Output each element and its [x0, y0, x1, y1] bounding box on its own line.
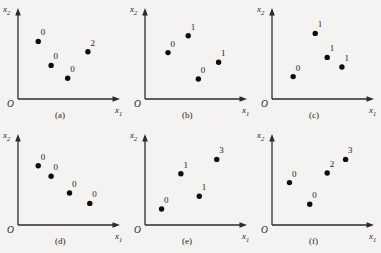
data-point: [287, 180, 292, 185]
data-point-label: 0: [54, 52, 59, 61]
data-point-label: 1: [318, 20, 323, 29]
scatter-panel-f: 0023x2x1O(f): [254, 126, 381, 252]
data-point: [214, 157, 219, 162]
y-axis-label: x2: [3, 5, 10, 16]
data-point: [216, 60, 221, 65]
scatter-panel-a: 0002x2x1O(a): [0, 0, 127, 126]
data-point-label: 3: [219, 146, 224, 155]
panel-canvas: [0, 126, 127, 252]
data-point: [159, 206, 164, 211]
y-axis-arrow-icon: [269, 8, 275, 16]
data-point-label: 0: [171, 40, 176, 49]
data-point: [325, 170, 330, 175]
scatter-panel-c: 0111x2x1O(c): [254, 0, 381, 126]
x-axis-label: x1: [369, 232, 376, 243]
data-point-label: 0: [70, 65, 75, 74]
data-point-label: 0: [201, 66, 206, 75]
scatter-plot-figure: 0002x2x1O(a)0101x2x1O(b)0111x2x1O(c)0000…: [0, 0, 381, 253]
panel-canvas: [127, 126, 254, 252]
panel-caption: (f): [309, 237, 318, 246]
origin-label: O: [7, 226, 14, 236]
data-point-label: 1: [202, 183, 207, 192]
data-point: [165, 50, 170, 55]
data-point-label: 0: [41, 153, 46, 162]
x-axis-label: x1: [115, 106, 122, 117]
panel-caption: (b): [182, 111, 193, 120]
data-point: [325, 55, 330, 60]
panel-canvas: [0, 0, 127, 126]
data-point: [196, 76, 201, 81]
y-axis-arrow-icon: [15, 134, 21, 142]
x-axis-arrow-icon: [240, 96, 248, 102]
data-point: [186, 33, 191, 38]
data-point-label: 1: [221, 49, 226, 58]
data-point: [48, 63, 53, 68]
y-axis-arrow-icon: [269, 134, 275, 142]
origin-label: O: [261, 100, 268, 110]
origin-label: O: [7, 100, 14, 110]
data-point: [87, 201, 92, 206]
data-point-label: 3: [348, 146, 353, 155]
data-point-label: 0: [164, 196, 169, 205]
y-axis-label: x2: [3, 131, 10, 142]
panel-caption: (d): [55, 237, 66, 246]
y-axis-label: x2: [257, 5, 264, 16]
y-axis-arrow-icon: [142, 8, 148, 16]
data-point-label: 0: [41, 28, 46, 37]
panel-canvas: [254, 126, 381, 252]
origin-label: O: [134, 226, 141, 236]
y-axis-label: x2: [130, 5, 137, 16]
data-point-label: 2: [90, 39, 95, 48]
x-axis-arrow-icon: [367, 222, 375, 228]
y-axis-label: x2: [257, 131, 264, 142]
x-axis-arrow-icon: [367, 96, 375, 102]
data-point-label: 1: [183, 161, 188, 170]
scatter-panel-b: 0101x2x1O(b): [127, 0, 254, 126]
data-point: [313, 31, 318, 36]
x-axis-label: x1: [115, 232, 122, 243]
x-axis-arrow-icon: [113, 96, 121, 102]
panel-caption: (e): [182, 237, 192, 246]
x-axis-arrow-icon: [113, 222, 121, 228]
y-axis-arrow-icon: [142, 134, 148, 142]
data-point: [67, 190, 72, 195]
x-axis-arrow-icon: [240, 222, 248, 228]
panel-caption: (c): [309, 111, 319, 120]
data-point-label: 0: [312, 191, 317, 200]
data-point-label: 0: [92, 190, 97, 199]
data-point-label: 2: [330, 160, 335, 169]
data-point: [178, 171, 183, 176]
data-point: [307, 202, 312, 207]
scatter-panel-d: 0000x2x1O(d): [0, 126, 127, 252]
data-point-label: 0: [72, 180, 77, 189]
data-point-label: 1: [330, 44, 335, 53]
data-point-label: 0: [296, 64, 301, 73]
data-point-label: 0: [292, 170, 297, 179]
y-axis-label: x2: [130, 131, 137, 142]
data-point: [290, 74, 295, 79]
x-axis-label: x1: [242, 106, 249, 117]
data-point: [85, 49, 90, 54]
panel-canvas: [127, 0, 254, 126]
panel-caption: (a): [55, 111, 65, 120]
data-point-label: 0: [54, 163, 59, 172]
scatter-panel-e: 0113x2x1O(e): [127, 126, 254, 252]
data-point: [343, 157, 348, 162]
data-point: [197, 194, 202, 199]
data-point: [36, 163, 41, 168]
data-point: [48, 174, 53, 179]
data-point: [36, 39, 41, 44]
origin-label: O: [261, 226, 268, 236]
data-point-label: 1: [344, 54, 349, 63]
x-axis-label: x1: [242, 232, 249, 243]
data-point-label: 1: [191, 23, 196, 32]
data-point: [339, 64, 344, 69]
data-point: [65, 76, 70, 81]
x-axis-label: x1: [369, 106, 376, 117]
y-axis-arrow-icon: [15, 8, 21, 16]
origin-label: O: [134, 100, 141, 110]
